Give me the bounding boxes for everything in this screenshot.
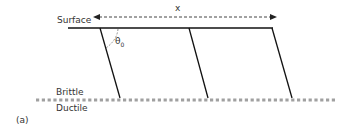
- panel-label: (a): [16, 116, 29, 125]
- angle-subscript: 0: [121, 41, 125, 48]
- arrow-left-icon: [93, 14, 100, 20]
- spacing-arrow: [93, 14, 277, 20]
- surface-label: Surface: [57, 16, 91, 25]
- angle-label: θ0: [115, 37, 124, 48]
- brittle-label: Brittle: [56, 88, 83, 97]
- fault-3: [272, 28, 292, 98]
- fault-2: [189, 28, 208, 98]
- arrow-right-icon: [270, 14, 277, 20]
- ductile-label: Ductile: [56, 104, 88, 113]
- fault-diagram: [0, 0, 350, 129]
- spacing-label: x: [175, 4, 180, 13]
